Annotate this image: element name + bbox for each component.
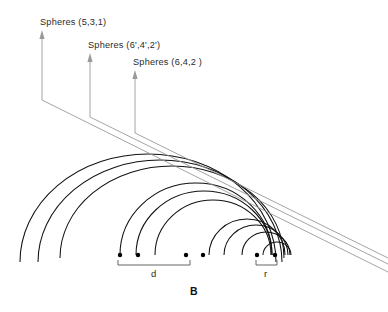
dimension-d [118, 260, 190, 265]
sphere-dot-1 [118, 253, 122, 257]
sphere-dot-3 [184, 253, 188, 257]
sphere-dot-5 [255, 253, 259, 257]
spheres-642-prime-label: Spheres (6',4',2') [88, 40, 160, 50]
arc-outer-3 [60, 166, 284, 258]
diagram-canvas [0, 0, 388, 312]
spheres-642-label: Spheres (6,4,2 ) [133, 57, 202, 67]
spheres-531-label: Spheres (5,3,1) [40, 17, 106, 27]
sphere-arc-diagram: Spheres (5,3,1)Spheres (6',4',2')Spheres… [0, 0, 388, 312]
leader-line-1 [42, 100, 388, 272]
dimension-d-label: d [151, 268, 156, 279]
arc-outer-2 [38, 160, 282, 262]
dimension-r-label: r [264, 268, 267, 279]
leader-line-2 [90, 117, 388, 264]
spheres-531-arrowhead-icon [39, 30, 44, 39]
spheres-642-arrowhead-icon [132, 70, 137, 79]
spheres-642-prime-arrowhead-icon [87, 53, 92, 62]
dimension-r [256, 260, 277, 265]
sphere-dot-4 [201, 253, 205, 257]
panel-label-b: B [190, 285, 198, 297]
sphere-dot-2 [136, 253, 140, 257]
leader-line-3 [135, 133, 388, 258]
arc-outer-1 [20, 154, 276, 262]
sphere-dot-6 [273, 253, 277, 257]
